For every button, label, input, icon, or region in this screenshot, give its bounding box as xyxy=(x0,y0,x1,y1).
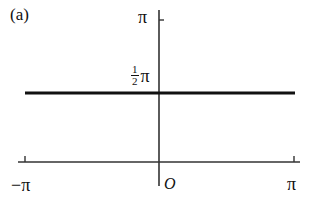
y-tick-label-pi: π xyxy=(138,8,147,26)
plot-canvas xyxy=(0,0,311,213)
x-tick-label-neg-pi: −π xyxy=(11,176,30,194)
fraction-denominator: 2 xyxy=(132,76,138,87)
origin-label: O xyxy=(164,176,176,192)
pi-symbol: π xyxy=(141,67,150,85)
y-tick-label-half-pi: 1 2 π xyxy=(131,64,150,87)
fraction-one-half: 1 2 xyxy=(131,64,139,87)
x-tick-label-pos-pi: π xyxy=(287,175,296,193)
panel-label: (a) xyxy=(10,6,29,23)
